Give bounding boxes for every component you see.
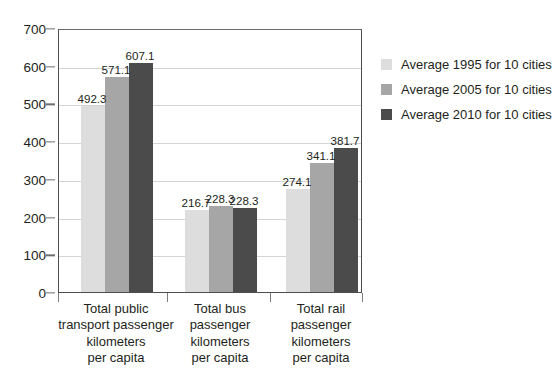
legend-swatch-icon [381,59,392,70]
legend-item: Average 2010 for 10 cities [381,102,553,127]
category-label-line: kilometers [165,334,275,350]
bar [105,77,129,292]
y-tick-label: 600 [12,59,46,74]
category-separator-tick [270,293,271,302]
bar [185,210,209,292]
y-tick-mark [46,141,55,142]
category-separator-tick [167,293,168,302]
chart-legend: Average 1995 for 10 cities Average 2005 … [381,52,553,127]
category-label-line: kilometers [266,334,376,350]
category-label-line: Total bus [165,301,275,317]
bar-value-label: 381.7 [328,134,362,147]
bar-chart: 0100200300400500600700 Average 1995 for … [0,0,557,381]
bar [334,148,358,292]
y-axis: 0100200300400500600700 [8,29,46,293]
bar-value-label: 607.1 [123,49,157,62]
bar-value-label: 228.3 [227,194,261,207]
y-tick-label: 200 [12,210,46,225]
y-tick-mark [46,28,55,29]
y-tick-label: 0 [12,286,46,301]
bar-value-label: 341.1 [304,149,338,162]
bar [209,206,233,292]
category-label-line: per capita [266,350,376,366]
category-separator-tick [58,293,59,302]
bar [129,63,153,292]
y-tick-label: 300 [12,172,46,187]
y-tick-mark [46,66,55,67]
legend-swatch-icon [381,84,392,95]
y-tick-label: 100 [12,248,46,263]
category-label: Total railpassengerkilometersper capita [266,301,376,367]
category-label-line: per capita [165,350,275,366]
category-label-line: passenger [165,317,275,333]
y-tick-label: 700 [12,22,46,37]
legend-item-label: Average 2005 for 10 cities [401,82,552,97]
y-tick-mark [46,217,55,218]
legend-swatch-icon [381,109,392,120]
category-separator-tick [362,293,363,302]
bar-value-label: 274.1 [280,175,314,188]
y-tick-mark [46,255,55,256]
bar [233,208,257,292]
y-tick-label: 500 [12,97,46,112]
category-label: Total buspassengerkilometersper capita [165,301,275,367]
bar [81,106,105,292]
bar [286,189,310,292]
y-tick-label: 400 [12,135,46,150]
y-tick-mark [46,104,55,105]
legend-item-label: Average 2010 for 10 cities [401,107,552,122]
legend-item: Average 1995 for 10 cities [381,52,553,77]
bar-value-label: 571.1 [99,63,133,76]
legend-item-label: Average 1995 for 10 cities [401,57,552,72]
category-label-line: Total rail [266,301,376,317]
y-tick-mark [46,292,55,293]
bar-value-label: 492.3 [75,92,109,105]
category-label-line: passenger [266,317,376,333]
y-tick-mark [46,179,55,180]
legend-item: Average 2005 for 10 cities [381,77,553,102]
